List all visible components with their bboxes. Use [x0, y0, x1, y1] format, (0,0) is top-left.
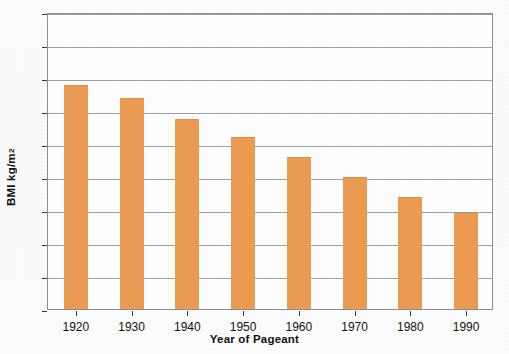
bar — [175, 119, 199, 309]
x-tick-mark — [299, 311, 300, 316]
x-tick-label: 1990 — [436, 320, 496, 334]
bar — [120, 98, 144, 309]
x-tick-mark — [243, 311, 244, 316]
y-gridline — [48, 146, 492, 147]
y-gridline — [48, 245, 492, 246]
bar — [64, 85, 88, 309]
y-gridline — [48, 212, 492, 213]
x-tick-mark — [76, 311, 77, 316]
x-tick-mark — [132, 311, 133, 316]
y-axis-title-superscript: 2 — [7, 148, 16, 153]
plot-area: 1516171819202122232419201930194019501960… — [47, 13, 493, 310]
y-tick-mark — [42, 113, 47, 114]
bar — [454, 213, 478, 309]
bar — [343, 177, 367, 309]
x-tick-label: 1970 — [325, 320, 385, 334]
x-tick-mark — [355, 311, 356, 316]
x-tick-label: 1920 — [46, 320, 106, 334]
x-tick-label: 1940 — [157, 320, 217, 334]
y-gridline — [48, 113, 492, 114]
x-axis-title: Year of Pageant — [0, 333, 509, 345]
y-tick-mark — [42, 278, 47, 279]
x-tick-label: 1960 — [269, 320, 329, 334]
y-tick-mark — [42, 14, 47, 15]
y-tick-mark — [42, 80, 47, 81]
x-tick-label: 1950 — [213, 320, 273, 334]
x-tick-mark — [466, 311, 467, 316]
bar — [231, 137, 255, 309]
y-gridline — [48, 80, 492, 81]
x-tick-mark — [187, 311, 188, 316]
y-tick-mark — [42, 311, 47, 312]
y-tick-mark — [42, 212, 47, 213]
bar — [287, 157, 311, 309]
x-tick-label: 1980 — [380, 320, 440, 334]
chart-page: BMI kg/m2 151617181920212223241920193019… — [0, 0, 509, 354]
y-gridline — [48, 278, 492, 279]
y-axis-title: BMI kg/m2 — [2, 0, 20, 354]
y-tick-mark — [42, 245, 47, 246]
y-axis-title-text: BMI kg/m — [5, 153, 17, 206]
y-gridline — [48, 179, 492, 180]
y-gridline — [48, 14, 492, 15]
x-tick-label: 1930 — [102, 320, 162, 334]
x-tick-mark — [410, 311, 411, 316]
y-gridline — [48, 47, 492, 48]
y-tick-mark — [42, 146, 47, 147]
y-tick-mark — [42, 179, 47, 180]
bar — [398, 197, 422, 309]
y-tick-mark — [42, 47, 47, 48]
